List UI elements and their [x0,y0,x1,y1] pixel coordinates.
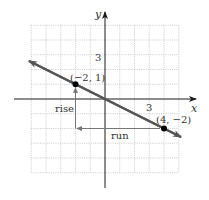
rise-label: rise [55,103,74,114]
point-b-label: (4, −2) [156,114,191,125]
coordinate-plane: y x 3 3 (−2, 1) (4, −2) rise run [0,0,209,200]
y-tick-label: 3 [95,52,101,63]
run-label: run [111,130,129,141]
x-tick-label: 3 [146,102,152,113]
point-a-label: (−2, 1) [70,72,105,83]
x-axis-label: x [191,102,198,115]
y-axis-label: y [94,8,102,21]
point-b [161,126,167,132]
